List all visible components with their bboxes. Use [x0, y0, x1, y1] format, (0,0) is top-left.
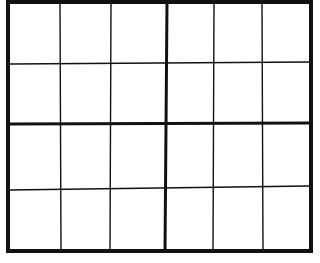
grid-cell — [60, 2, 111, 63]
grid-cell — [60, 188, 111, 251]
grid-cell — [111, 124, 166, 188]
thin-vertical-line — [60, 4, 61, 250]
grid-cell — [214, 188, 262, 251]
thick-horizontal-divider — [9, 123, 310, 124]
grid-cells — [8, 2, 311, 251]
grid-cell — [166, 124, 214, 188]
grid-cell — [166, 2, 214, 63]
grid-cell — [214, 2, 262, 63]
thick-vertical-divider — [165, 3, 167, 251]
grid-cell — [262, 2, 311, 63]
grid-cell — [8, 188, 60, 251]
grid-cell — [60, 63, 111, 124]
grid-cell — [214, 124, 262, 188]
grid-cell — [111, 63, 166, 124]
grid-cell — [166, 188, 214, 251]
grid-cell — [8, 124, 60, 188]
grid-cell — [214, 63, 262, 124]
grid-cell — [262, 124, 311, 188]
grid-cell — [111, 2, 166, 63]
grid-cell — [8, 63, 60, 124]
puzzle-grid — [0, 0, 320, 263]
grid-cell — [166, 63, 214, 124]
grid-cell — [262, 188, 311, 251]
thin-vertical-line — [110, 4, 111, 250]
grid-cell — [60, 124, 111, 188]
grid-cell — [111, 188, 166, 251]
thin-vertical-line — [213, 4, 214, 250]
grid-cell — [262, 63, 311, 124]
grid-cell — [8, 2, 60, 63]
